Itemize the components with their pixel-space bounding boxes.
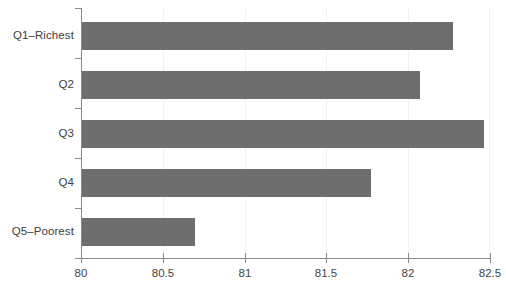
bar-q3 xyxy=(81,120,484,148)
y-axis-label-q2: Q2 xyxy=(0,78,74,92)
bar-q2 xyxy=(81,71,420,99)
y-axis-label-text: Q3 xyxy=(0,127,74,139)
x-axis-tick xyxy=(408,253,409,263)
x-axis-tick xyxy=(326,253,327,263)
x-axis-line xyxy=(81,258,490,259)
x-axis-title xyxy=(0,286,506,295)
y-axis-tick xyxy=(75,8,82,9)
x-axis-tick xyxy=(163,253,164,263)
y-axis-label-q4: Q4 xyxy=(0,176,74,190)
x-axis-tick xyxy=(81,253,82,263)
y-axis-label-q5-poorest: Q5–Poorest xyxy=(0,225,74,239)
x-axis-tick xyxy=(245,253,246,263)
bar-chart: Q1–Richest Q2 Q3 Q4 Q5–Poorest 80 80.5 8… xyxy=(0,0,506,295)
gridline xyxy=(489,8,490,258)
y-axis-label-text: Q2 xyxy=(0,78,74,90)
y-axis-tick xyxy=(75,208,82,209)
y-axis-line xyxy=(81,8,82,258)
bar-q1-richest xyxy=(81,22,453,50)
x-axis-tick-label: 80 xyxy=(75,267,88,279)
x-axis-tick-label: 81 xyxy=(239,267,252,279)
x-axis-tick-label: 80.5 xyxy=(152,267,174,279)
bar-q5-poorest xyxy=(81,218,195,246)
y-axis-label-q1-richest: Q1–Richest xyxy=(0,29,74,43)
x-axis-tick-label: 81.5 xyxy=(315,267,337,279)
x-axis-tick xyxy=(490,253,491,263)
y-axis-tick xyxy=(75,158,82,159)
x-axis-tick-label: 82.5 xyxy=(479,267,501,279)
y-axis-label-text: Q1–Richest xyxy=(0,29,74,41)
y-axis-tick xyxy=(75,58,82,59)
bar-q4 xyxy=(81,169,371,197)
y-axis-label-q3: Q3 xyxy=(0,127,74,141)
x-axis-tick-label: 82 xyxy=(402,267,415,279)
y-axis-label-text: Q5–Poorest xyxy=(0,225,74,237)
y-axis-tick xyxy=(75,108,82,109)
y-axis-label-text: Q4 xyxy=(0,176,74,188)
